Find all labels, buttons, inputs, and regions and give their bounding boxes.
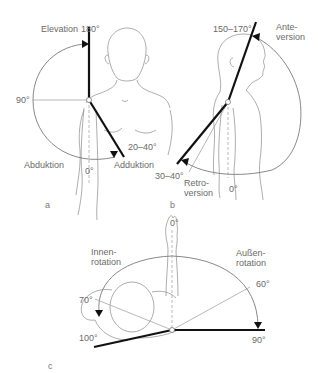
back-of-neck-b	[218, 62, 221, 92]
arm-a	[78, 108, 98, 220]
elevation-value: 180°	[81, 24, 100, 34]
reference-line-70	[95, 299, 172, 330]
arrowhead-aussen	[254, 322, 262, 329]
abduction-arc	[33, 44, 115, 159]
zero-value-c: 0°	[170, 218, 179, 228]
panel-label-b: b	[170, 200, 175, 210]
torso-b	[213, 90, 263, 200]
head-top-c	[110, 282, 154, 332]
retroversion-reference-line	[189, 102, 228, 172]
value-60: 60°	[256, 279, 270, 289]
adduction-range-value: 20–40°	[128, 142, 157, 152]
shoulder-range-of-motion-diagram: Elevation 180° 90° 20–40° Abduktion Addu…	[0, 0, 318, 373]
horizontal-90-value: 90°	[16, 95, 30, 105]
adduction-label: Adduktion	[114, 160, 154, 170]
zero-value-b: 0°	[229, 184, 238, 194]
value-70: 70°	[79, 295, 93, 305]
anteversion-range-value: 150–170°	[213, 24, 252, 34]
retroversion-label-line2: version	[184, 188, 213, 198]
anteversion-label-line1: Ante-	[276, 22, 298, 32]
arrowhead-innen	[95, 310, 103, 317]
value-100: 100°	[79, 333, 98, 343]
external-rotation-label-line2: rotation	[236, 258, 266, 268]
abduction-label: Abduktion	[24, 160, 64, 170]
internal-rotation-label-line2: rotation	[91, 257, 121, 267]
internal-rotation-label-line1: Innen-	[91, 247, 117, 257]
external-rotation-label-line1: Außen-	[236, 248, 266, 258]
panel-a-abduction-adduction: Elevation 180° 90° 20–40° Abduktion Addu…	[16, 24, 172, 220]
arrowhead-anteversion	[252, 33, 260, 41]
panel-label-c: c	[48, 361, 53, 371]
shoulder-joint-c	[170, 328, 175, 333]
panel-b-anteversion-retroversion: 150–170° Ante- version 30–40° Retro- ver…	[155, 22, 305, 210]
shoulder-joint-b	[226, 100, 231, 105]
reference-line-60	[172, 287, 250, 330]
panel-c-rotation: 0° Innen- rotation Außen- rotation 70° 1…	[48, 216, 270, 371]
panel-label-a: a	[45, 200, 50, 210]
zero-value-a: 0°	[85, 166, 94, 176]
arrowhead-adduction	[110, 151, 118, 158]
ear-b	[230, 58, 234, 67]
anteversion-label-line2: version	[276, 32, 305, 42]
value-90: 90°	[252, 335, 266, 345]
adduction-line	[89, 100, 124, 157]
head-outline-a	[108, 28, 146, 81]
neck-shoulders-a	[86, 80, 170, 108]
retroversion-range-value: 30–40°	[155, 171, 184, 181]
retroversion-label-line1: Retro-	[184, 178, 209, 188]
rotation-arc	[99, 256, 258, 327]
internal-rotation-line-100	[94, 330, 172, 347]
elevation-label: Elevation	[41, 24, 78, 34]
retroversion-line	[177, 102, 228, 164]
shoulder-joint-a	[87, 98, 92, 103]
